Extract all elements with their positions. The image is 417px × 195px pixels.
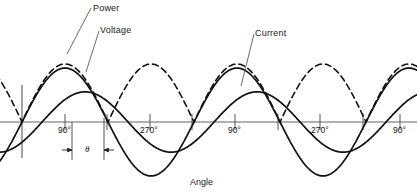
- waveform-figure: Power Voltage Current θ Angle 90° 270° 9…: [0, 0, 417, 195]
- voltage-label: Voltage: [100, 26, 131, 35]
- x-tick-label-270-second: 270°: [311, 126, 329, 135]
- x-tick-label-90-second: 90°: [228, 126, 241, 135]
- x-tick-label-90-third: 90°: [393, 126, 406, 135]
- current-label: Current: [255, 29, 286, 38]
- power-leader-line: [67, 8, 91, 54]
- current-leader-line: [241, 34, 254, 86]
- power-curve: [0, 64, 417, 122]
- theta-label: θ: [85, 145, 89, 154]
- x-tick-label-90-first: 90°: [58, 126, 71, 135]
- voltage-leader-line: [86, 31, 99, 72]
- x-axis-title: Angle: [190, 178, 213, 187]
- x-tick-label-270-first: 270°: [140, 126, 158, 135]
- power-label: Power: [93, 4, 120, 13]
- waveform-plot: [0, 0, 417, 195]
